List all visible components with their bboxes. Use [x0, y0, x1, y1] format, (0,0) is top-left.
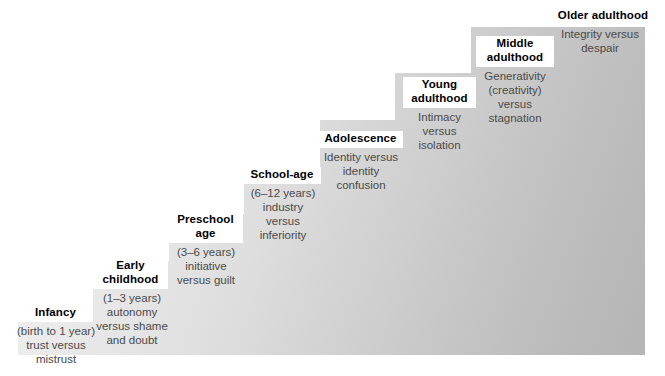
- stage-body-preschool-age: (3–6 years) initiative versus guilt: [161, 245, 251, 287]
- stage-title-young-adulthood: Young adulthood: [403, 78, 476, 105]
- stage-title-adolescence: Adolescence: [318, 132, 403, 146]
- stage-title-infancy: Infancy: [18, 306, 93, 320]
- stage-body-adolescence: Identity versus identity confusion: [318, 150, 404, 192]
- stage-title-early-childhood: Early childhood: [93, 259, 168, 286]
- stage-title-preschool-age: Preschool age: [168, 213, 243, 240]
- stage-body-older-adulthood: Integrity versus despair: [548, 27, 652, 55]
- stage-title-older-adulthood: Older adulthood: [548, 9, 658, 23]
- stage-title-middle-adulthood: Middle adulthood: [476, 37, 554, 64]
- stage-title-school-age: School-age: [243, 168, 321, 182]
- stage-body-early-childhood: (1–3 years) autonomy versus shame and do…: [86, 291, 178, 347]
- stage-body-school-age: (6–12 years) industry versus inferiority: [240, 186, 326, 242]
- erikson-stages-figure: Infancy (birth to 1 year) trust versus m…: [0, 0, 665, 376]
- stage-body-middle-adulthood: Generativity (creativity) versus stagnat…: [470, 69, 560, 125]
- stage-body-young-adulthood: Intimacy versus isolation: [403, 110, 476, 152]
